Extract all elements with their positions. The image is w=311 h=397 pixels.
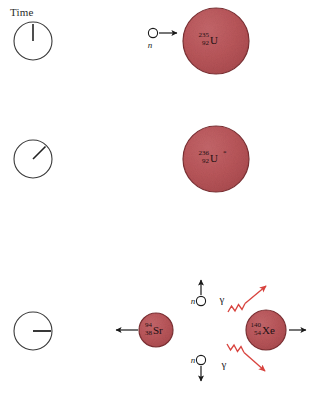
gamma-ray-up: γ: [219, 286, 266, 312]
u236-mass-number: 236: [199, 149, 210, 157]
sr94-symbol: Sr: [153, 324, 163, 336]
clock-stage-3: [14, 312, 52, 350]
stage-compound-nucleus: 236 92 U *: [14, 126, 249, 192]
fission-diagram: Time: [0, 0, 311, 397]
clock-stage-2: [14, 140, 52, 178]
u235-mass-number: 235: [199, 31, 210, 39]
u235-atomic-number: 92: [202, 39, 210, 47]
nucleus-u235: 235 92 U: [183, 8, 249, 74]
nucleus-u236: 236 92 U *: [183, 126, 249, 192]
u236-atomic-number: 92: [202, 157, 210, 165]
incoming-neutron-label: n: [148, 40, 153, 50]
emitted-neutron-down: n: [191, 355, 206, 381]
gamma-up-label: γ: [219, 293, 225, 305]
time-axis-label: Time: [10, 6, 34, 18]
clock-stage-1: [14, 22, 52, 60]
xe140-mass-number: 140: [251, 321, 262, 329]
diagram-canvas: n 235 92 U 236 92 U *: [0, 0, 311, 397]
fragment-xe140: 140 54 Xe: [246, 310, 306, 350]
stage-capture: n 235 92 U: [14, 8, 249, 74]
emitted-neutron-down-label: n: [191, 355, 196, 365]
u236-excited-marker: *: [223, 149, 227, 157]
fragment-sr94: 94 38 Sr: [116, 313, 173, 347]
u235-symbol: U: [210, 34, 218, 46]
stage-fission: 94 38 Sr 140 54 Xe n n: [14, 280, 306, 381]
emitted-neutron-up-label: n: [191, 296, 196, 306]
u236-symbol: U: [210, 152, 218, 164]
emitted-neutron-up: n: [191, 280, 206, 306]
sr94-atomic-number: 38: [145, 329, 153, 337]
xe140-atomic-number: 54: [254, 329, 262, 337]
sr94-mass-number: 94: [145, 321, 153, 329]
xe140-symbol: Xe: [262, 324, 275, 336]
incoming-neutron: n: [148, 28, 177, 50]
gamma-down-label: γ: [221, 358, 227, 370]
